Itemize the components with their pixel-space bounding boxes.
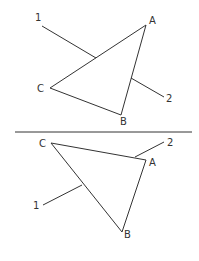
top-label-B: B — [120, 116, 127, 127]
triangle-diagram: A B C 1 2 A B C 2 1 — [0, 0, 199, 261]
bottom-leader-2 — [135, 142, 164, 157]
top-label-1: 1 — [35, 12, 41, 23]
top-leader-2 — [131, 78, 164, 97]
top-leader-1 — [42, 26, 96, 58]
bottom-label-B: B — [124, 229, 131, 240]
bottom-label-1: 1 — [33, 200, 39, 211]
bottom-label-C: C — [39, 138, 46, 149]
top-triangle — [50, 25, 146, 115]
bottom-triangle — [51, 143, 146, 232]
top-label-2: 2 — [166, 93, 172, 104]
top-label-A: A — [149, 15, 156, 26]
top-figure: A B C 1 2 — [35, 12, 172, 127]
bottom-figure: A B C 2 1 — [33, 137, 173, 240]
bottom-label-2: 2 — [167, 137, 173, 148]
top-label-C: C — [37, 83, 44, 94]
bottom-label-A: A — [149, 157, 156, 168]
bottom-leader-1 — [43, 185, 82, 205]
